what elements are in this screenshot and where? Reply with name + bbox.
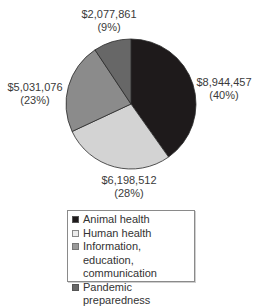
legend-label: Animal health — [83, 213, 150, 227]
legend-swatch — [72, 284, 79, 291]
slice-label-human-health: $6,198,512 (28%) — [101, 174, 156, 200]
legend-swatch — [72, 230, 79, 237]
legend-label: Information, education, communication — [83, 240, 194, 281]
legend-label: Human health — [83, 227, 152, 241]
legend-item-human-health: Human health — [72, 227, 194, 241]
slice-amount: $2,077,861 — [81, 8, 136, 21]
slice-percent: (28%) — [101, 187, 156, 200]
slice-amount: $8,944,457 — [196, 76, 251, 89]
slice-percent: (40%) — [196, 89, 251, 102]
slice-amount: $6,198,512 — [101, 174, 156, 187]
legend-item-pandemic-preparedness: Pandemic preparedness — [72, 281, 194, 308]
slice-percent: (23%) — [7, 94, 62, 107]
legend-swatch — [72, 216, 79, 223]
slice-percent: (9%) — [81, 21, 136, 34]
legend-item-animal-health: Animal health — [72, 213, 194, 227]
legend-item-information: Information, education, communication — [72, 240, 194, 281]
slice-label-pandemic-preparedness: $2,077,861 (9%) — [81, 8, 136, 34]
slice-label-information: $5,031,076 (23%) — [7, 81, 62, 107]
slice-amount: $5,031,076 — [7, 81, 62, 94]
legend-swatch — [72, 243, 79, 250]
chart-legend: Animal health Human health Information, … — [67, 210, 195, 282]
slice-label-animal-health: $8,944,457 (40%) — [196, 76, 251, 102]
pie-slices — [66, 39, 196, 169]
legend-label: Pandemic preparedness — [83, 281, 194, 308]
